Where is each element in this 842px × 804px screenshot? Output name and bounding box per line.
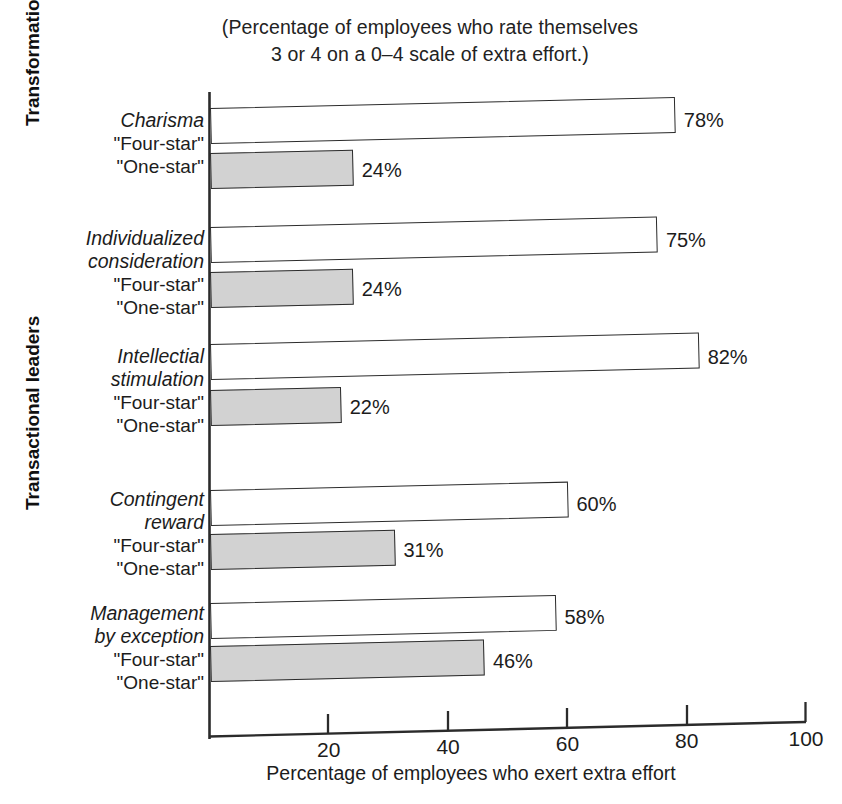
bar-value-label-one-star-2: 24% [362, 271, 402, 307]
bar-four-star-5 [210, 595, 557, 639]
bar-value-label-four-star-5: 58% [564, 599, 604, 635]
series-label-one-star: "One-star" [39, 557, 204, 580]
series-label-one-star: "One-star" [39, 296, 204, 319]
category-label-contingent-reward: Contingent reward "Four-star" "One-star" [39, 488, 204, 580]
bar-value-label-one-star-5: 46% [493, 643, 533, 679]
category-name: Charisma [39, 109, 204, 132]
x-tick-label-100: 100 [776, 727, 836, 751]
x-tick-label-60: 60 [537, 732, 597, 756]
bar-four-star-2 [210, 216, 658, 262]
category-label-intellectial-stimulation: Intellectial stimulation "Four-star" "On… [39, 345, 204, 437]
category-label-charisma: Charisma "Four-star" "One-star" [39, 109, 204, 178]
category-name-cont: by exception [39, 625, 204, 648]
x-tick-label-20: 20 [299, 738, 359, 762]
chart-title-line-2: 3 or 4 on a 0–4 scale of extra effort.) [150, 41, 710, 68]
category-name-cont: stimulation [39, 368, 204, 391]
series-label-four-star: "Four-star" [39, 648, 204, 671]
x-tick-label-40: 40 [418, 735, 478, 759]
category-name: Individualized [39, 227, 204, 250]
bar-one-star-2 [210, 269, 354, 308]
bar-value-label-one-star-3: 22% [350, 389, 390, 425]
series-label-four-star: "Four-star" [39, 273, 204, 296]
bar-one-star-3 [210, 387, 342, 426]
bar-four-star-4 [210, 481, 569, 525]
series-label-four-star: "Four-star" [39, 534, 204, 557]
bar-value-label-four-star-4: 60% [576, 486, 616, 522]
series-label-one-star: "One-star" [39, 671, 204, 694]
bar-one-star-4 [210, 529, 396, 569]
category-name-cont: reward [39, 511, 204, 534]
series-label-one-star: "One-star" [39, 414, 204, 437]
bar-value-label-four-star-2: 75% [666, 222, 706, 258]
category-label-management-by-exception: Management by exception "Four-star" "One… [39, 602, 204, 694]
category-name: Management [39, 602, 204, 625]
category-label-individualized-consideration: Individualized consideration "Four-star"… [39, 227, 204, 319]
x-tick-label-80: 80 [657, 729, 717, 753]
category-name: Contingent [39, 488, 204, 511]
bar-value-label-one-star-4: 31% [403, 532, 443, 568]
bar-value-label-four-star-1: 78% [684, 102, 724, 138]
category-labels: Charisma "Four-star" "One-star" Individu… [34, 92, 204, 735]
category-name: Intellectial [39, 345, 204, 368]
chart-title: (Percentage of employees who rate themse… [150, 14, 710, 68]
bar-value-label-one-star-1: 24% [362, 152, 402, 188]
category-name-cont: consideration [39, 250, 204, 273]
bar-value-label-four-star-3: 82% [708, 339, 748, 375]
x-axis-title: Percentage of employees who exert extra … [171, 762, 771, 785]
bar-chart: (Percentage of employees who rate themse… [0, 0, 842, 804]
bar-one-star-5 [210, 639, 485, 681]
bar-four-star-1 [210, 97, 676, 144]
series-label-one-star: "One-star" [39, 155, 204, 178]
chart-title-line-1: (Percentage of employees who rate themse… [150, 14, 710, 41]
bar-one-star-1 [210, 150, 354, 189]
bar-four-star-3 [210, 333, 700, 380]
series-label-four-star: "Four-star" [39, 391, 204, 414]
series-label-four-star: "Four-star" [39, 132, 204, 155]
